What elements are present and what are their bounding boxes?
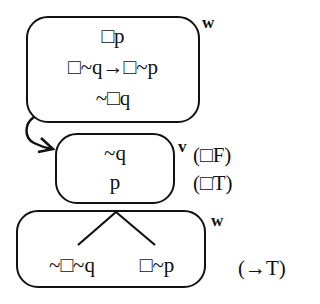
formula-conditional: □~q→□~p — [26, 55, 200, 79]
branch-left-formula: ~□~q — [22, 253, 122, 277]
rule-box-f: (□F) — [193, 143, 231, 167]
world-label-w-2: w — [211, 212, 223, 229]
branch-right-formula: □~p — [122, 253, 192, 277]
formula-p: p — [55, 170, 175, 194]
formula-box-p: □p — [26, 24, 200, 48]
rule-conditional-t: (→T) — [238, 256, 286, 280]
world-label-v: v — [178, 138, 187, 155]
formula-not-q: ~q — [55, 141, 175, 165]
world-label-w: w — [202, 14, 214, 31]
rule-box-t: (□T) — [193, 171, 233, 195]
formula-not-box-q: ~□q — [26, 86, 200, 110]
